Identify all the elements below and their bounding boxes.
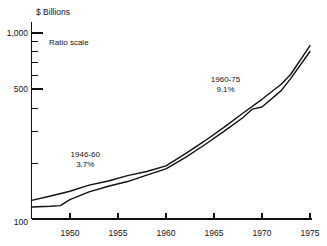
x-tick-label-1970: 1970 bbox=[253, 228, 272, 238]
x-tick-label-1955: 1955 bbox=[109, 228, 128, 238]
x-tick-label-1960: 1960 bbox=[157, 228, 176, 238]
y-tick-label-100: 100 bbox=[14, 217, 28, 227]
annotation-rate-1960-75: 9.1% bbox=[216, 85, 234, 94]
chart-container: $ Billions 1,000 500 100 Ratio scale 195… bbox=[0, 0, 327, 246]
ratio-scale-note: Ratio scale bbox=[49, 38, 89, 47]
annotation-period-1960-75: 1960-75 bbox=[211, 75, 241, 84]
annotation-rate-1946-60: 3.7% bbox=[76, 160, 94, 169]
data-line-upper bbox=[32, 46, 311, 201]
x-tick-label-1965: 1965 bbox=[205, 228, 224, 238]
annotation-period-1946-60: 1946-60 bbox=[71, 150, 101, 159]
line-chart: $ Billions 1,000 500 100 Ratio scale 195… bbox=[0, 0, 327, 246]
y-tick-label-500: 500 bbox=[14, 84, 28, 94]
data-line-lower bbox=[32, 52, 311, 207]
y-tick-label-1000: 1,000 bbox=[7, 28, 29, 38]
y-axis-title: $ Billions bbox=[36, 7, 70, 17]
x-tick-label-1975: 1975 bbox=[301, 228, 320, 238]
x-tick-label-1950: 1950 bbox=[61, 228, 80, 238]
